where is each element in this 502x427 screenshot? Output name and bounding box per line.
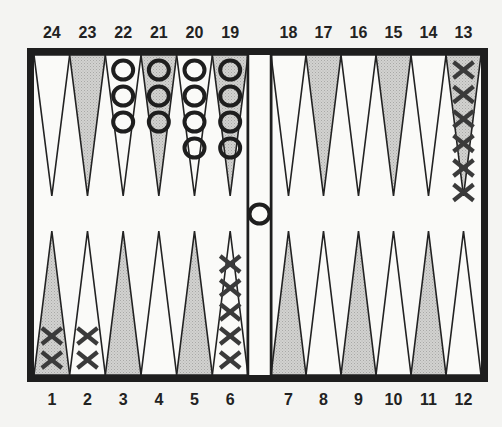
backgammon-board bbox=[0, 0, 502, 427]
bar-checker-o[interactable] bbox=[250, 205, 270, 224]
